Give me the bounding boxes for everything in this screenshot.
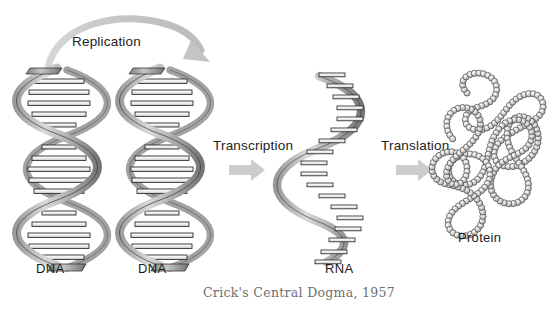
label-dna-2: DNA (138, 261, 166, 276)
protein-bead-chain (429, 70, 546, 239)
label-transcription: Transcription (213, 138, 293, 153)
translation-arrow-icon (396, 159, 432, 181)
dna-double-helix-1 (17, 68, 108, 271)
diagram-caption: Crick's Central Dogma, 1957 (203, 285, 395, 300)
dna-double-helix-2 (120, 68, 211, 271)
central-dogma-diagram: DNA DNA RNA Protein Replication Transcri… (0, 0, 558, 309)
label-dna-1: DNA (36, 261, 64, 276)
transcription-arrow-icon (229, 159, 265, 181)
label-replication: Replication (72, 34, 141, 49)
label-protein: Protein (458, 230, 501, 245)
rna-single-helix (277, 73, 363, 264)
label-rna: RNA (325, 261, 353, 276)
label-translation: Translation (381, 138, 449, 153)
